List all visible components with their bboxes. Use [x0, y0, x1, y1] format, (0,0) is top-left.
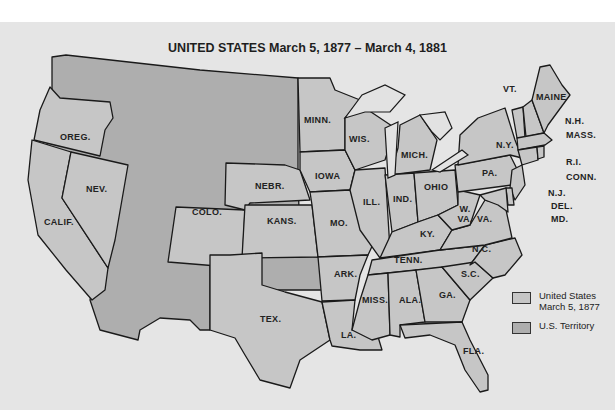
label-west-virginia: W. VA.	[454, 204, 476, 224]
label-wisconsin: WIS.	[349, 134, 370, 144]
legend-label: United States	[539, 290, 600, 301]
label-oregon: OREG.	[60, 132, 91, 142]
map-legend: United States March 5, 1877 U.S. Territo…	[512, 290, 600, 342]
label-kansas: KANS.	[267, 216, 297, 226]
label-north-carolina: N.C.	[472, 244, 491, 254]
label-south-carolina: S.C.	[461, 269, 480, 279]
legend-label: U.S. Territory	[539, 320, 594, 331]
label-ohio: OHIO	[424, 182, 448, 192]
label-new-york: N.Y.	[496, 140, 514, 150]
label-iowa: IOWA	[315, 171, 340, 181]
map-title: UNITED STATES March 5, 1877 – March 4, 1…	[0, 41, 615, 55]
label-rhode-island: R.I.	[566, 157, 581, 167]
legend-swatch-territory	[512, 322, 531, 334]
label-nevada: NEV.	[86, 184, 107, 194]
label-florida: FLA.	[463, 346, 484, 356]
label-michigan: MICH.	[401, 150, 428, 160]
label-kentucky: KY.	[420, 229, 435, 239]
state-florida	[400, 322, 488, 392]
label-california: CALIF.	[44, 217, 74, 227]
label-massachusetts: MASS.	[566, 130, 596, 140]
label-maine: MAINE	[536, 92, 567, 102]
label-mississippi: MISS.	[362, 295, 388, 305]
label-delaware: DEL.	[551, 201, 573, 211]
label-pennsylvania: PA.	[482, 168, 497, 178]
label-texas: TEX.	[260, 314, 281, 324]
state-connecticut	[518, 147, 538, 165]
label-connecticut: CONN.	[566, 172, 597, 182]
state-new-york	[458, 108, 522, 165]
legend-swatch-state	[512, 292, 531, 304]
label-arkansas: ARK.	[334, 269, 357, 279]
label-missouri: MO.	[330, 218, 348, 228]
label-louisiana: LA.	[341, 330, 356, 340]
state-kansas	[242, 205, 318, 258]
legend-item-territory: U.S. Territory	[512, 320, 600, 334]
label-indiana: IND.	[393, 194, 412, 204]
label-maryland: MD.	[551, 214, 568, 224]
label-nebraska: NEBR.	[255, 181, 285, 191]
label-georgia: GA.	[439, 290, 456, 300]
label-colorado: COLO.	[192, 207, 222, 217]
label-illinois: ILL.	[363, 197, 380, 207]
us-map	[0, 0, 615, 410]
label-new-hampshire: N.H.	[565, 116, 584, 126]
label-new-jersey: N.J.	[548, 188, 566, 198]
label-minnesota: MINN.	[304, 115, 331, 125]
label-tennessee: TENN.	[394, 255, 423, 265]
legend-label-date: March 5, 1877	[539, 301, 600, 312]
legend-item-united-states: United States March 5, 1877	[512, 290, 600, 312]
label-virginia: VA.	[477, 214, 492, 224]
label-vermont: VT.	[503, 84, 517, 94]
label-alabama: ALA.	[399, 295, 421, 305]
state-rhode-island	[537, 146, 544, 159]
